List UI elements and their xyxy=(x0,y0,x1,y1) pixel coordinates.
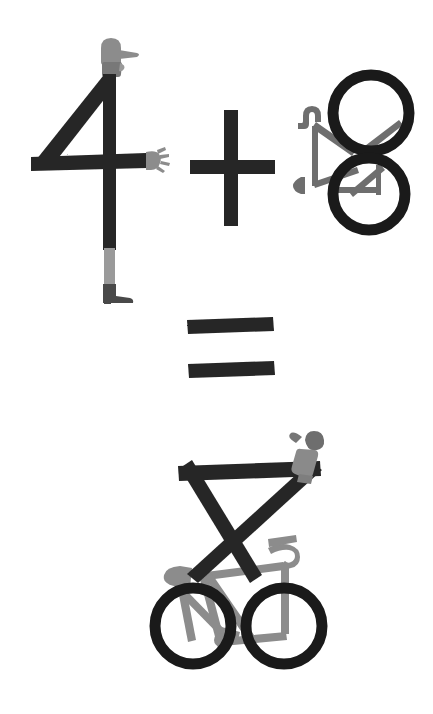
saddle-icon xyxy=(293,177,305,194)
rider-cap-icon xyxy=(305,431,324,450)
term-result-cyclist xyxy=(155,431,324,664)
leg-icon xyxy=(104,248,115,286)
equals-top-bar xyxy=(187,317,274,334)
operator-equals xyxy=(187,317,275,378)
head-icon xyxy=(101,38,121,65)
term-four xyxy=(31,38,170,304)
plus-horizontal-bar xyxy=(190,160,275,174)
bicycle-wheel-upper xyxy=(333,75,409,151)
bicycle-wheel-lower xyxy=(333,158,405,230)
term-bicycle-eight xyxy=(293,75,409,230)
hand-icon xyxy=(146,147,170,173)
shoe-icon xyxy=(103,284,133,304)
equals-bottom-bar xyxy=(188,361,275,378)
four-head-group xyxy=(101,38,139,77)
cap-brim-icon xyxy=(119,50,139,59)
illustration-canvas: Four plus bicycle equals cyclist 4 + bic… xyxy=(0,0,433,714)
rider-cap-brim-icon xyxy=(289,433,302,443)
operator-plus xyxy=(190,110,275,226)
visual-equation xyxy=(0,0,433,714)
